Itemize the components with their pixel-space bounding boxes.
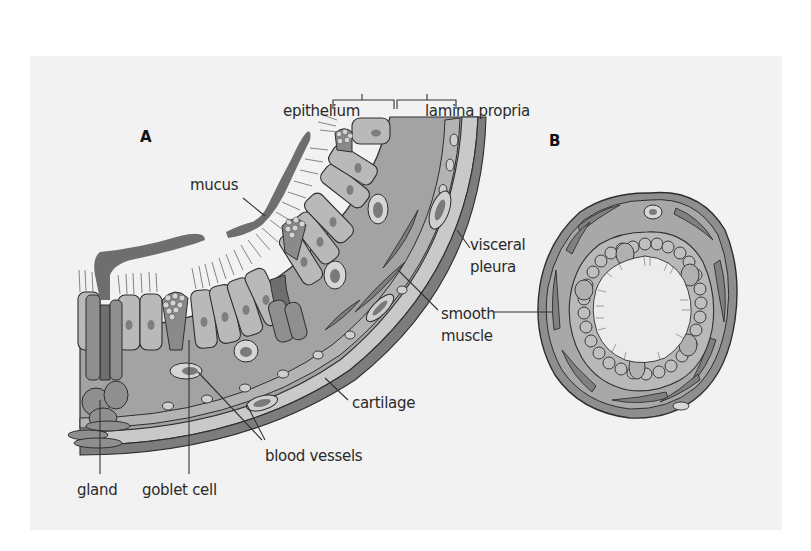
mucus-leader-line [243,198,265,216]
mucus-layer [94,132,310,300]
airway-wall-diagram: A epithelium lamina propria mucus viscer… [0,0,811,551]
diagram-a: A epithelium lamina propria mucus viscer… [68,94,530,499]
label-blood-vessels: blood vessels [265,447,363,465]
label-smooth-muscle-line1: smooth [441,305,495,323]
label-visceral-pleura-line2: pleura [470,258,516,276]
cartilage-cell-nucleus [649,209,657,215]
label-epithelium: epithelium [283,102,360,120]
panel-label-b: B [549,132,560,150]
label-goblet-cell: goblet cell [142,481,217,499]
label-mucus: mucus [190,176,239,194]
label-visceral-pleura-line1: visceral [470,236,525,254]
panel-label-a: A [140,128,152,146]
airway-lumen [593,256,691,363]
bottom-vessel [673,402,689,410]
label-lamina-propria: lamina propria [425,102,530,120]
diagram-b: B [494,132,737,418]
label-cartilage: cartilage [352,394,415,412]
label-gland: gland [77,481,117,499]
label-smooth-muscle-line2: muscle [441,327,493,345]
